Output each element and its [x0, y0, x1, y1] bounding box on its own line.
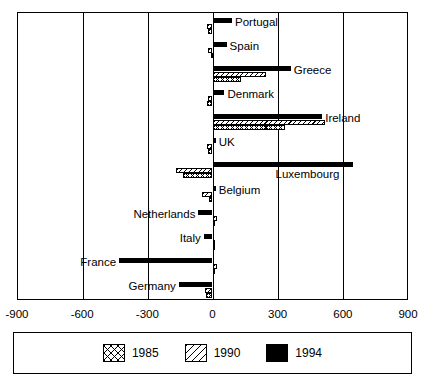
bar-portugal-1990	[207, 24, 212, 29]
legend-item-1985: 1985	[103, 344, 159, 362]
bar-uk-1985	[208, 149, 212, 154]
x-tick-0: 0	[183, 308, 243, 320]
bar-ireland-1990	[213, 120, 326, 125]
cross-hatch-swatch	[103, 344, 125, 362]
bar-luxembourg-1985	[183, 173, 212, 178]
x-tick-300: 300	[248, 308, 308, 320]
bar-italy-1994	[204, 234, 213, 239]
legend-item-1994: 1994	[266, 344, 322, 362]
bar-belgium-1994	[213, 186, 216, 191]
category-label-ireland: Ireland	[325, 112, 360, 124]
bar-belgium-1985	[209, 197, 212, 202]
category-label-germany: Germany	[129, 280, 176, 292]
legend-label-1994: 1994	[295, 347, 322, 360]
legend-label-1990: 1990	[214, 347, 241, 360]
x-tick--600: -600	[52, 308, 112, 320]
bar-netherlands-1985	[213, 221, 215, 226]
bar-spain-1994	[213, 42, 227, 47]
category-label-italy: Italy	[180, 232, 201, 244]
bar-spain-1990	[208, 48, 212, 53]
legend-item-1990: 1990	[185, 344, 241, 362]
solid-black-swatch	[266, 344, 288, 362]
bar-greece-1990	[213, 72, 266, 77]
x-tick--300: -300	[117, 308, 177, 320]
bar-netherlands-1994	[198, 210, 212, 215]
bar-france-1994	[119, 258, 212, 263]
diagonal-hatch-swatch	[185, 344, 207, 362]
bar-ireland-1994	[213, 114, 323, 119]
bar-denmark-1985	[207, 101, 212, 106]
bar-chart: -900-600-3000300600900 198519901994 Port…	[0, 0, 425, 378]
category-label-denmark: Denmark	[227, 88, 274, 100]
bar-greece-1985	[213, 77, 241, 82]
bar-uk-1990	[207, 144, 212, 149]
bar-spain-1985	[211, 53, 213, 58]
category-label-netherlands: Netherlands	[133, 208, 195, 220]
x-tick-600: 600	[313, 308, 373, 320]
category-label-spain: Spain	[230, 40, 259, 52]
bar-italy-1990	[213, 240, 215, 245]
legend-label-1985: 1985	[132, 347, 159, 360]
bar-italy-1985	[213, 245, 215, 250]
bar-luxembourg-1990	[176, 168, 213, 173]
category-label-france: France	[80, 256, 116, 268]
bar-uk-1994	[213, 138, 216, 143]
x-tick--900: -900	[0, 308, 47, 320]
category-label-portugal: Portugal	[235, 16, 278, 28]
bar-france-1990	[213, 264, 217, 269]
bar-greece-1994	[213, 66, 291, 71]
category-label-luxembourg: Luxembourg	[275, 168, 339, 180]
bars-layer	[17, 12, 408, 300]
bar-germany-1990	[205, 288, 213, 293]
bar-germany-1985	[206, 293, 213, 298]
category-label-greece: Greece	[294, 64, 332, 76]
bar-denmark-1990	[208, 96, 212, 101]
bar-portugal-1985	[208, 29, 212, 34]
bar-france-1985	[213, 269, 215, 274]
category-label-uk: UK	[219, 136, 235, 148]
bar-luxembourg-1994	[213, 162, 353, 167]
bar-denmark-1994	[213, 90, 225, 95]
bar-netherlands-1990	[213, 216, 217, 221]
legend: 198519901994	[13, 332, 412, 374]
bar-ireland-1985	[213, 125, 286, 130]
x-tick-900: 900	[378, 308, 425, 320]
category-label-belgium: Belgium	[219, 184, 261, 196]
bar-portugal-1994	[213, 18, 233, 23]
legend-items: 198519901994	[14, 333, 411, 373]
bar-belgium-1990	[202, 192, 213, 197]
bar-germany-1994	[179, 282, 213, 287]
